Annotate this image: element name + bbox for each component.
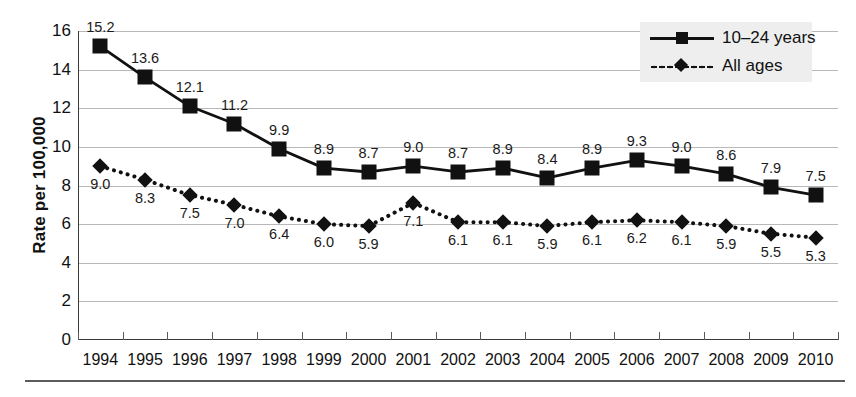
legend-key-solid-square-icon — [650, 28, 714, 48]
x-axis-tick-label: 2007 — [664, 351, 700, 369]
chart-legend: 10–24 years All ages — [640, 22, 812, 82]
data-point-marker — [629, 153, 644, 168]
data-point-marker — [406, 159, 421, 174]
data-point-value-label: 12.1 — [176, 79, 204, 95]
data-point-value-label: 9.0 — [90, 176, 110, 192]
data-point-value-label: 5.9 — [358, 236, 378, 252]
data-point-value-label: 6.4 — [269, 226, 289, 242]
data-point-marker — [808, 188, 823, 203]
data-point-value-label: 6.1 — [582, 232, 602, 248]
data-point-value-label: 6.1 — [448, 232, 468, 248]
legend-label-all-ages: All ages — [722, 56, 782, 76]
bottom-divider — [25, 380, 845, 382]
data-point-marker — [93, 39, 108, 54]
data-point-marker — [763, 180, 778, 195]
y-axis-tick-label: 2 — [62, 291, 71, 311]
x-axis-tick-label: 2008 — [708, 351, 744, 369]
data-point-marker — [540, 170, 555, 185]
data-point-value-label: 8.6 — [716, 147, 736, 163]
x-axis-tick-label: 2004 — [530, 351, 566, 369]
data-point-value-label: 8.3 — [135, 190, 155, 206]
data-point-value-label: 5.5 — [761, 244, 781, 260]
data-point-value-label: 6.1 — [493, 232, 513, 248]
x-axis-tick-label: 2003 — [485, 351, 521, 369]
data-point-marker — [272, 141, 287, 156]
data-point-value-label: 8.9 — [582, 141, 602, 157]
x-axis-tick-label: 1996 — [172, 351, 208, 369]
data-point-marker — [138, 70, 153, 85]
legend-item-all-ages[interactable]: All ages — [650, 52, 782, 80]
x-axis-tick-label: 2006 — [619, 351, 655, 369]
data-point-marker — [674, 159, 689, 174]
y-axis-tick-label: 16 — [52, 21, 71, 41]
data-point-value-label: 15.2 — [86, 19, 114, 35]
x-axis-tick-label: 2009 — [753, 351, 789, 369]
x-axis-tick — [838, 332, 839, 340]
gridline — [78, 340, 838, 341]
y-axis-tick-label: 14 — [52, 60, 71, 80]
legend-item-10-24-years[interactable]: 10–24 years — [650, 24, 816, 52]
legend-label-10-24-years: 10–24 years — [722, 28, 816, 48]
data-point-value-label: 7.9 — [761, 160, 781, 176]
data-point-marker — [719, 166, 734, 181]
y-axis-tick-label: 0 — [62, 330, 71, 350]
data-point-value-label: 7.1 — [403, 213, 423, 229]
data-point-marker — [316, 161, 331, 176]
x-axis-tick-label: 2010 — [798, 351, 834, 369]
data-point-value-label: 8.7 — [448, 145, 468, 161]
x-axis-tick-label: 1995 — [127, 351, 163, 369]
y-axis-title: Rate per 100,000 — [30, 85, 50, 285]
legend-key-dotted-diamond-icon — [650, 56, 714, 76]
y-axis-tick-label: 4 — [62, 253, 71, 273]
data-point-marker — [227, 116, 242, 131]
data-point-value-label: 8.9 — [314, 141, 334, 157]
x-axis-tick-label: 2001 — [395, 351, 431, 369]
data-point-value-label: 9.3 — [627, 133, 647, 149]
data-point-value-label: 8.9 — [493, 141, 513, 157]
data-point-marker — [182, 99, 197, 114]
x-axis-tick-label: 2000 — [351, 351, 387, 369]
data-point-marker — [495, 161, 510, 176]
x-axis-tick-label: 1999 — [306, 351, 342, 369]
data-point-value-label: 13.6 — [131, 50, 159, 66]
y-axis-tick-label: 10 — [52, 137, 71, 157]
data-point-value-label: 8.4 — [537, 151, 557, 167]
data-point-value-label: 6.1 — [671, 232, 691, 248]
x-axis-tick-label: 2002 — [440, 351, 476, 369]
data-point-value-label: 6.2 — [627, 230, 647, 246]
chart-figure: Rate per 100,000 0246810121416 199419951… — [0, 0, 856, 397]
data-point-value-label: 9.0 — [671, 139, 691, 155]
x-axis-tick-label: 2005 — [574, 351, 610, 369]
data-point-value-label: 9.9 — [269, 122, 289, 138]
data-point-value-label: 5.9 — [716, 236, 736, 252]
x-axis-tick-label: 1997 — [217, 351, 253, 369]
x-axis-tick-label: 1994 — [83, 351, 119, 369]
data-point-marker — [451, 164, 466, 179]
x-axis-tick-label: 1998 — [261, 351, 297, 369]
data-point-marker — [361, 164, 376, 179]
y-axis-tick-label: 6 — [62, 214, 71, 234]
data-point-value-label: 7.5 — [806, 168, 826, 184]
data-point-value-label: 7.0 — [224, 215, 244, 231]
y-axis-tick-label: 8 — [62, 176, 71, 196]
data-point-value-label: 5.3 — [806, 248, 826, 264]
data-point-value-label: 7.5 — [180, 205, 200, 221]
data-point-value-label: 9.0 — [403, 139, 423, 155]
data-point-marker — [585, 161, 600, 176]
data-point-value-label: 8.7 — [358, 145, 378, 161]
data-point-value-label: 5.9 — [537, 236, 557, 252]
data-point-value-label: 6.0 — [314, 234, 334, 250]
y-axis-tick-label: 12 — [52, 98, 71, 118]
data-point-value-label: 11.2 — [221, 97, 248, 113]
